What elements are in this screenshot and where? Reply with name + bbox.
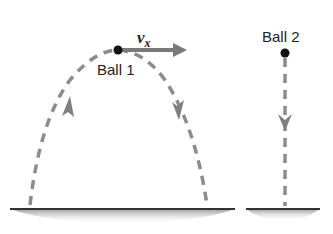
ball1-label: Ball 1: [97, 61, 135, 78]
velocity-label: vx: [137, 28, 151, 50]
velocity-arrow: [120, 43, 187, 57]
ball2-dot: [281, 49, 290, 58]
projectile-diagram: vx Ball 1 Ball 2: [0, 0, 333, 234]
arrowhead-down-icon: [278, 114, 292, 131]
arrowhead-up-icon: [62, 96, 74, 117]
ground-right: [246, 209, 320, 221]
ground-left: [10, 209, 235, 224]
ball2-label: Ball 2: [262, 28, 300, 45]
ball1-dot: [114, 46, 123, 55]
